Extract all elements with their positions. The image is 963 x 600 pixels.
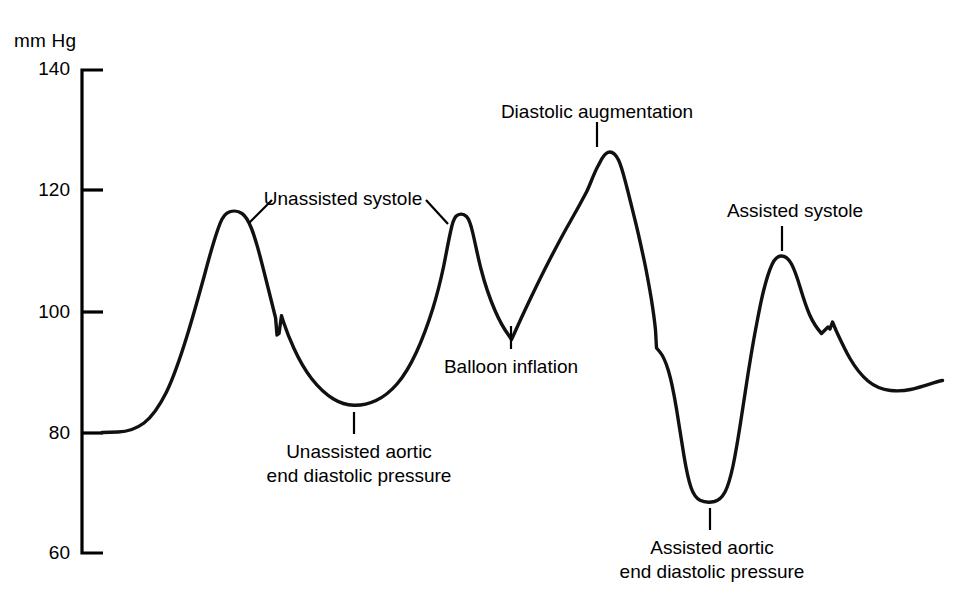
annotation-assisted-aedp: Assisted aortic end diastolic pressure xyxy=(620,536,805,584)
annotation-assisted-aedp-line1: Assisted aortic xyxy=(620,536,805,560)
y-axis-ticks xyxy=(82,190,103,433)
annotation-unassisted-aedp-line2: end diastolic pressure xyxy=(267,464,452,488)
annotation-unassisted-aedp: Unassisted aortic end diastolic pressure xyxy=(267,440,452,488)
annotation-assisted-aedp-line2: end diastolic pressure xyxy=(620,560,805,584)
annotation-assisted-systole: Assisted systole xyxy=(727,199,863,222)
annotation-balloon-inflation: Balloon inflation xyxy=(444,355,578,378)
annotation-unassisted-systole: Unassisted systole xyxy=(264,187,422,210)
iabp-waveform-figure: mm Hg 140 120 100 80 60 xyxy=(0,0,963,600)
leader-unassisted-systole-right xyxy=(426,200,448,224)
waveform-plot xyxy=(0,0,963,600)
annotation-diastolic-augmentation: Diastolic augmentation xyxy=(501,100,693,123)
annotation-unassisted-aedp-line1: Unassisted aortic xyxy=(267,440,452,464)
